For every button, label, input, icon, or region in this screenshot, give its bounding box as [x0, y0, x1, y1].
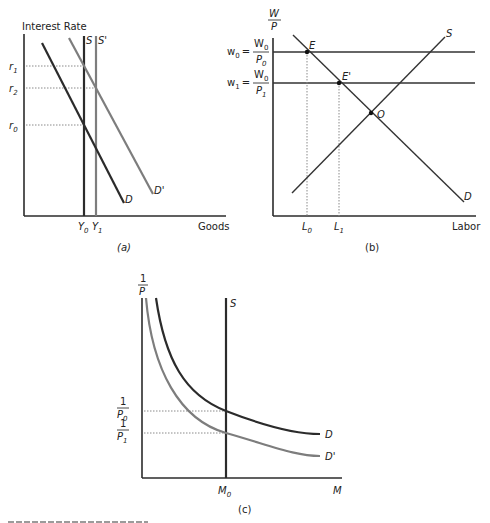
panel-a-D-label: D [125, 194, 133, 205]
E-label: E [309, 40, 316, 51]
panel-a-S-prime-label: S' [98, 35, 107, 46]
M0-label: M0 [218, 485, 232, 499]
E-prime-label: E' [342, 71, 351, 82]
r1-label: r1 [9, 61, 18, 75]
w1-label: w1= [227, 77, 250, 91]
W0-numerator-b: W0 [254, 69, 268, 83]
panel-c-ylabel-num: 1 [140, 273, 146, 284]
Y1-label: Y1 [92, 221, 103, 235]
point-E-prime [337, 81, 341, 85]
inv-P1-num: 1 [120, 418, 126, 429]
panel-c-D-label: D [325, 429, 333, 440]
P1-denominator: P1 [256, 85, 267, 99]
figure-caption-truncated [8, 519, 148, 523]
panel-a-x-axis-label: Goods [198, 221, 230, 232]
Y0-label: Y0 [78, 221, 89, 235]
panel-b-D-label: D [464, 191, 472, 202]
panel-a-caption: (a) [117, 242, 131, 253]
w0-label: w0= [227, 46, 250, 60]
panel-a: Interest Rate r1 r2 r0 S S' D D' Y0 Y1 G… [9, 21, 230, 253]
panel-c-D-curve [156, 298, 320, 434]
panel-a-D-prime-line [69, 38, 153, 194]
panel-a-S-label: S [86, 35, 93, 46]
panel-c: 1 P 1 P0 1 P1 S D D' M0 M (c) [117, 273, 342, 515]
panel-c-x-axis-label: M [333, 485, 342, 496]
figure-canvas: .axis { stroke: #2b2b2b; stroke-width: 1… [0, 0, 490, 523]
r2-label: r2 [9, 83, 18, 97]
O-label: O [377, 109, 385, 120]
panel-b-ylabel-den: P [271, 21, 278, 32]
panel-c-caption: (c) [238, 504, 251, 515]
panel-b-S-label: S [446, 28, 453, 39]
panel-b-ylabel-num: W [269, 8, 280, 19]
inv-P0-num: 1 [120, 396, 126, 407]
point-O [369, 111, 373, 115]
panel-c-D-prime-label: D' [325, 451, 335, 462]
panel-b: W P w0= W0 P0 w1= W0 P1 S D E E' O [227, 8, 481, 253]
panel-c-ylabel-den: P [139, 286, 146, 297]
panel-b-S-line [292, 37, 445, 193]
P0-denominator: P0 [256, 54, 267, 68]
inv-P1-den: P1 [117, 431, 128, 445]
panel-b-caption: (b) [365, 242, 379, 253]
panel-a-y-axis-label: Interest Rate [22, 21, 87, 32]
panel-a-D-prime-label: D' [154, 185, 164, 196]
L1-label: L1 [334, 221, 344, 235]
r0-label: r0 [9, 120, 18, 134]
panel-b-x-axis-label: Labor [452, 221, 481, 232]
W0-numerator-a: W0 [254, 38, 268, 52]
panel-c-S-label: S [230, 298, 237, 309]
L0-label: L0 [302, 221, 313, 235]
